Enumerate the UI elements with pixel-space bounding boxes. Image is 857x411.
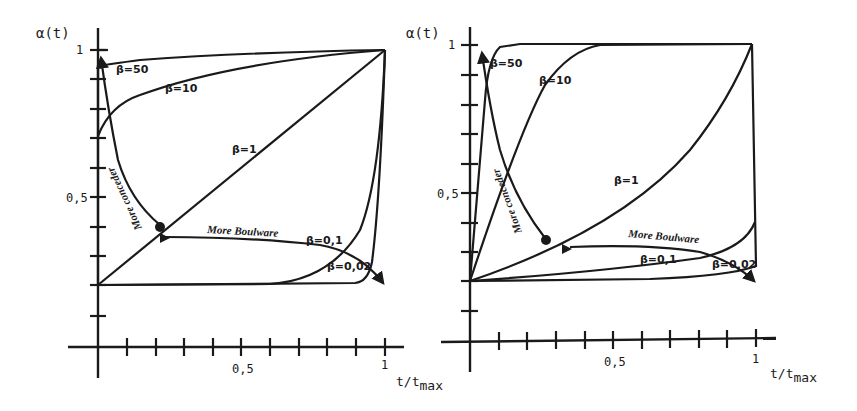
x-axis-label: t/tmax [770, 366, 817, 385]
annotation-more-boulware: More Boulware [206, 223, 279, 239]
x-axis-label: t/tmax [396, 374, 443, 393]
label-beta-50: β=50 [116, 63, 149, 76]
arrow-origin-wedge [562, 244, 572, 254]
label-beta-1: β=1 [614, 174, 639, 187]
y-axis-label: α(t) [36, 25, 70, 41]
label-beta-10: β=10 [539, 74, 572, 87]
y-axis-label: α(t) [406, 25, 440, 41]
curve-beta-1 [98, 50, 385, 285]
y-tick-label-half: 0,5 [66, 191, 88, 205]
y-tick-label-half: 0,5 [437, 187, 459, 201]
label-beta-0-02: β=0,02 [327, 260, 371, 273]
label-beta-10: β=10 [165, 82, 198, 95]
x-tick-label-1: 1 [752, 352, 759, 366]
x-tick-label-1: 1 [381, 358, 388, 372]
label-beta-0-1: β=0,1 [306, 234, 343, 247]
chart-right: α(t) 1 0,5 0,5 1 t/tmax β=50 β=10 β=1 β=… [406, 25, 817, 385]
y-tick-label-1: 1 [76, 43, 83, 57]
arrow-origin-dot [155, 222, 165, 232]
x-axis [441, 338, 776, 342]
x-tick-label-half: 0,5 [604, 355, 626, 369]
label-beta-1: β=1 [232, 143, 257, 156]
y-tick-label-1: 1 [448, 38, 455, 52]
label-beta-0-1: β=0,1 [640, 253, 677, 266]
arrow-origin-dot [541, 235, 551, 245]
label-beta-0-02: β=0,02 [712, 258, 756, 271]
arrow-origin-wedge [160, 233, 170, 243]
x-tick-label-half: 0,5 [232, 362, 254, 376]
figure: α(t) 1 0,5 0,5 1 t/tmax β=50 β=10 β=1 β=… [0, 0, 857, 411]
annotation-more-boulware: More Boulware [627, 227, 700, 245]
chart-left: α(t) 1 0,5 0,5 1 t/tmax β=50 β=10 β=1 β=… [36, 25, 443, 393]
label-beta-50: β=50 [490, 57, 523, 70]
